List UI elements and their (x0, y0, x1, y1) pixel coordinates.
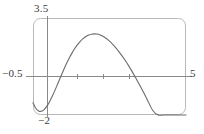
y-axis-min-label: −2 (38, 114, 50, 126)
y-axis-max-label: 3.5 (34, 2, 48, 14)
plot-frame (34, 19, 186, 115)
plot-screenshot: 3.5 −0.5 5 −2 (0, 0, 204, 134)
x-axis-max-label: 5 (190, 67, 196, 79)
curve-path (33, 34, 186, 115)
x-axis-min-label: −0.5 (2, 67, 23, 79)
plot-figure (0, 0, 204, 134)
